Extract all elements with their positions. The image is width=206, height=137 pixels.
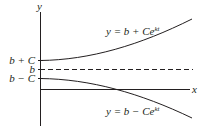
upper-curve-label-exponent: kt	[154, 25, 160, 33]
tick-label-b-minus-c: b − C	[9, 72, 35, 84]
y-axis-label: y	[36, 0, 42, 12]
diagram-canvas: y x b + C b b − C y = b + Cekt y = b − C…	[0, 0, 206, 137]
lower-curve-label-main: y = b − Ce	[105, 105, 155, 117]
upper-curve-label: y = b + Cekt	[105, 25, 161, 37]
lower-curve-label: y = b − Cekt	[105, 105, 161, 117]
upper-curve-label-main: y = b + Ce	[105, 25, 155, 37]
x-axis-label: x	[191, 83, 197, 95]
lower-curve-label-exponent: kt	[154, 105, 160, 113]
